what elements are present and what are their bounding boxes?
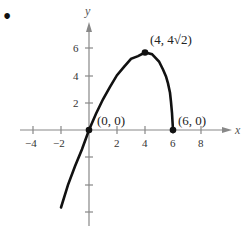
point-max [142, 49, 149, 56]
point-origin [86, 127, 93, 134]
y-axis-arrow-icon [86, 22, 92, 32]
x-tick-label: 6 [170, 137, 176, 149]
x-tick-label: 8 [198, 137, 204, 149]
y-tick-label: 6 [73, 42, 79, 54]
x-axis-label: x [234, 123, 241, 137]
x-tick-label: 2 [114, 137, 120, 149]
y-axis-label: y [84, 4, 91, 18]
chart: • x y −4 −2 2 4 6 8 6 4 2 (0, 0) [0, 0, 242, 244]
x-tick-label: −2 [53, 137, 65, 149]
y-tick-label: 2 [73, 97, 79, 109]
point-6-0 [170, 127, 177, 134]
annotation-origin: (0, 0) [97, 113, 125, 128]
x-axis-arrow-icon [222, 127, 232, 133]
x-tick-label: 4 [142, 137, 148, 149]
x-tick-label: −4 [25, 137, 37, 149]
figure-marker: • [2, 7, 12, 26]
annotation-max: (4, 4√2) [150, 32, 192, 47]
annotation-6-0: (6, 0) [178, 113, 206, 128]
y-tick-label: 4 [73, 70, 79, 82]
